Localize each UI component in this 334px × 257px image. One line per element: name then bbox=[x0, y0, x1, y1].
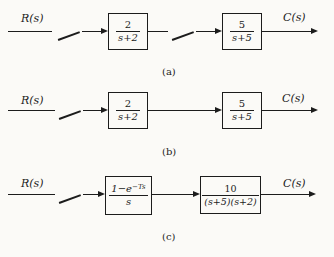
output-signal-label: C(s) bbox=[282, 92, 305, 105]
denominator: (s+5)(s+2) bbox=[202, 195, 259, 208]
numerator: 5 bbox=[230, 19, 254, 32]
output-signal-label: C(s) bbox=[283, 11, 306, 24]
subfigure-caption: (c) bbox=[162, 231, 175, 242]
arrow-head-icon bbox=[215, 107, 222, 113]
transfer-function: 5 s+5 bbox=[230, 19, 254, 45]
signal-line bbox=[8, 194, 55, 195]
output-signal-label: C(s) bbox=[283, 177, 306, 190]
transfer-function-block: 5 s+5 bbox=[222, 92, 262, 129]
sampler-switch bbox=[172, 31, 194, 40]
arrow-head-icon bbox=[101, 107, 108, 113]
sampler-switch bbox=[59, 194, 81, 203]
denominator: s bbox=[109, 195, 147, 209]
input-signal-label: R(s) bbox=[21, 177, 44, 190]
arrow-head-icon bbox=[101, 28, 108, 34]
signal-line bbox=[82, 31, 101, 32]
arrow-head-icon bbox=[309, 191, 316, 197]
input-signal-label: R(s) bbox=[21, 12, 44, 25]
transfer-function-block: 5 s+5 bbox=[222, 13, 262, 50]
arrow-head-icon bbox=[193, 191, 200, 197]
signal-line bbox=[83, 110, 101, 111]
signal-line bbox=[196, 31, 215, 32]
denominator: s+5 bbox=[230, 31, 254, 45]
signal-line bbox=[152, 194, 193, 195]
sampler-switch bbox=[59, 110, 81, 119]
transfer-function-block: 10 (s+5)(s+2) bbox=[200, 176, 261, 214]
transfer-function: 1−e−Ts s bbox=[109, 183, 147, 209]
denominator: s+2 bbox=[116, 31, 140, 45]
numerator-base: 1−e bbox=[111, 183, 132, 194]
arrow-head-icon bbox=[215, 28, 222, 34]
transfer-function: 2 s+2 bbox=[116, 19, 140, 45]
transfer-function-block: 2 s+2 bbox=[108, 13, 148, 50]
signal-line bbox=[262, 31, 311, 32]
signal-line bbox=[8, 31, 52, 32]
sampler-switch bbox=[58, 31, 80, 40]
denominator: s+5 bbox=[230, 110, 254, 124]
transfer-function: 2 s+2 bbox=[116, 98, 140, 124]
input-signal-label: R(s) bbox=[21, 94, 44, 107]
numerator: 2 bbox=[116, 98, 140, 111]
numerator: 2 bbox=[116, 19, 140, 32]
signal-line bbox=[83, 194, 98, 195]
signal-line bbox=[262, 110, 311, 111]
signal-line bbox=[8, 110, 55, 111]
signal-line bbox=[261, 194, 309, 195]
numerator-exponent: −Ts bbox=[132, 183, 146, 191]
numerator: 5 bbox=[230, 98, 254, 111]
arrow-head-icon bbox=[311, 107, 318, 113]
zero-order-hold-block: 1−e−Ts s bbox=[105, 176, 152, 215]
signal-line bbox=[148, 31, 168, 32]
signal-line bbox=[148, 110, 215, 111]
transfer-function-block: 2 s+2 bbox=[108, 92, 148, 129]
arrow-head-icon bbox=[98, 191, 105, 197]
arrow-head-icon bbox=[311, 28, 318, 34]
numerator: 10 bbox=[202, 183, 259, 195]
block-diagram-figure: R(s) 2 s+2 5 s+5 C(s) (a) R(s) bbox=[0, 0, 334, 257]
subfigure-caption: (b) bbox=[162, 146, 176, 157]
transfer-function: 5 s+5 bbox=[230, 98, 254, 124]
transfer-function: 10 (s+5)(s+2) bbox=[202, 183, 259, 208]
numerator: 1−e−Ts bbox=[109, 183, 147, 196]
denominator: s+2 bbox=[116, 110, 140, 124]
subfigure-caption: (a) bbox=[162, 66, 176, 77]
